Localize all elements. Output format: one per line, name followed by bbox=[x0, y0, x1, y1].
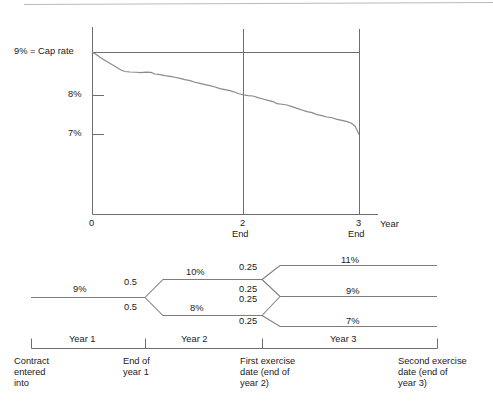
timeline-marker-first-exercise-line2: date (end of bbox=[240, 367, 290, 378]
timeline-marker-second-exercise-line1: Second exercise bbox=[398, 356, 467, 367]
timeline-span-year-2: Year 2 bbox=[181, 334, 208, 345]
y-axis-label-cap-rate: 9% = Cap rate bbox=[14, 46, 74, 57]
tree-label-prob-year3-1: 0.25 bbox=[239, 262, 257, 273]
timeline-span-year-1: Year 1 bbox=[69, 334, 96, 345]
tree-label-terminal-rate-3: 7% bbox=[346, 316, 359, 327]
timeline-span-year-3: Year 3 bbox=[330, 334, 357, 345]
timeline-marker-second-exercise-line3: year 3) bbox=[398, 378, 427, 389]
x-axis-label-3: 3 bbox=[356, 218, 361, 229]
tree-diagram-group bbox=[31, 266, 437, 327]
tree-label-prob-year3-3: 0.25 bbox=[239, 294, 257, 305]
tree-label-prob-year3-4: 0.25 bbox=[239, 316, 257, 327]
timeline-marker-first-exercise-line1: First exercise bbox=[240, 356, 295, 367]
y-axis-label-8: 8% bbox=[68, 89, 81, 100]
rate-curve bbox=[92, 52, 359, 135]
timeline-marker-contract-line3: into bbox=[14, 378, 29, 389]
x-axis-title-year: Year bbox=[380, 219, 399, 230]
tree-branch-up-up-year3 bbox=[262, 266, 437, 280]
tree-label-root-rate: 9% bbox=[73, 284, 86, 295]
tree-label-rate-up-year2: 10% bbox=[186, 267, 205, 278]
top-chart-group bbox=[92, 27, 378, 215]
timeline-marker-first-exercise-line3: year 2) bbox=[240, 378, 269, 389]
timeline-marker-contract-line2: entered bbox=[14, 367, 46, 378]
tree-branch-down-up-year3 bbox=[262, 297, 280, 316]
scan-artifact-line bbox=[24, 3, 493, 5]
timeline-marker-end-year1-line1: End of bbox=[123, 356, 150, 367]
x-axis-sublabel-2: End bbox=[232, 229, 249, 240]
figure-root: 9% = Cap rate 8% 7% 0 2 End 3 End Year 9… bbox=[0, 0, 493, 404]
x-axis-label-0: 0 bbox=[89, 218, 94, 229]
tree-label-terminal-rate-1: 11% bbox=[341, 255, 359, 266]
y-axis-label-7: 7% bbox=[68, 128, 81, 139]
tree-label-prob-down-year2: 0.5 bbox=[124, 302, 137, 313]
timeline-marker-contract-line1: Contract bbox=[14, 356, 49, 367]
x-axis-label-2: 2 bbox=[240, 218, 245, 229]
timeline-marker-end-year1-line2: year 1 bbox=[123, 367, 149, 378]
timeline-marker-second-exercise-line2: date (end of bbox=[398, 367, 448, 378]
tree-label-terminal-rate-2: 9% bbox=[346, 286, 359, 297]
tree-label-prob-up-year2: 0.5 bbox=[124, 277, 137, 288]
x-axis-sublabel-3: End bbox=[348, 229, 365, 240]
tree-label-rate-down-year2: 8% bbox=[190, 303, 203, 314]
